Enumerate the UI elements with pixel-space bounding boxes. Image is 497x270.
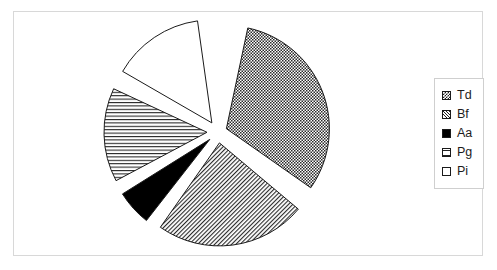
blank-swatch xyxy=(442,167,451,176)
legend-item-pi[interactable]: Pi xyxy=(442,162,478,181)
legend-label: Pi xyxy=(457,165,468,178)
chart-canvas: TdBfAaPgPi xyxy=(0,0,497,270)
legend-label: Pg xyxy=(457,146,472,159)
solid-black-swatch xyxy=(442,129,451,138)
legend-label: Td xyxy=(457,89,472,102)
legend-item-bf[interactable]: Bf xyxy=(442,105,478,124)
legend-label: Aa xyxy=(457,127,472,140)
legend-item-td[interactable]: Td xyxy=(442,86,478,105)
legend-label: Bf xyxy=(457,108,469,121)
pie-slices xyxy=(104,21,329,246)
horizontal-lines-swatch xyxy=(442,148,451,157)
chart-legend: TdBfAaPgPi xyxy=(434,78,484,189)
diagonal-swatch xyxy=(442,110,451,119)
pie-svg xyxy=(0,0,497,270)
pie-chart xyxy=(0,0,497,270)
legend-item-aa[interactable]: Aa xyxy=(442,124,478,143)
legend-item-pg[interactable]: Pg xyxy=(442,143,478,162)
checkerboard-swatch xyxy=(442,91,451,100)
